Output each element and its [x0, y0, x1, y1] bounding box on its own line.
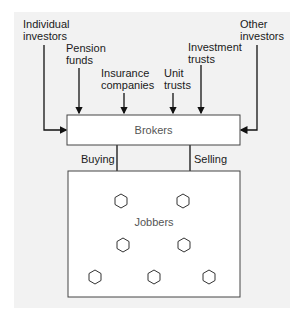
selling-label: Selling	[194, 153, 227, 165]
brokers-label: Brokers	[67, 124, 240, 136]
source-pension-funds: Pension funds	[66, 42, 106, 66]
diagram-lines	[0, 0, 301, 317]
buying-label: Buying	[81, 153, 115, 165]
source-unit-trusts: Unit trusts	[164, 67, 191, 91]
jobbers-box	[68, 171, 240, 297]
source-other-investors: Other investors	[240, 18, 284, 42]
source-investment-trusts: Investment trusts	[188, 41, 242, 65]
source-individual-investors: Individual investors	[23, 18, 69, 42]
jobbers-label: Jobbers	[68, 216, 240, 228]
source-insurance-companies: Insurance companies	[101, 67, 154, 91]
